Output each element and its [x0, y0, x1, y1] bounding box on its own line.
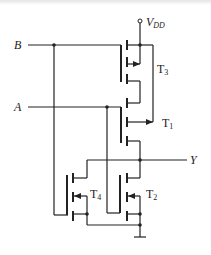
junction-dot: [138, 223, 142, 227]
t3-label: T3: [157, 62, 168, 77]
t1-arrow-icon: [146, 119, 153, 125]
output-y-label: Y: [190, 153, 198, 167]
t3-arrow-icon: [133, 61, 140, 67]
input-b-label: B: [14, 38, 22, 52]
t4-arrow-icon: [74, 193, 81, 199]
t2-arrow-icon: [128, 193, 135, 199]
t1-label: T1: [162, 116, 173, 131]
vdd-terminal-icon: [138, 19, 142, 23]
junction-dot: [138, 43, 142, 47]
t4-label: T4: [90, 187, 101, 202]
vdd-label: VDD: [146, 15, 165, 30]
t2-label: T2: [146, 187, 157, 202]
input-a-label: A: [13, 100, 22, 114]
junction-dot: [138, 212, 142, 216]
circuit-schematic: VDD B A Y T3 T1 T4 T2: [0, 0, 211, 255]
junction-dot: [85, 212, 89, 216]
